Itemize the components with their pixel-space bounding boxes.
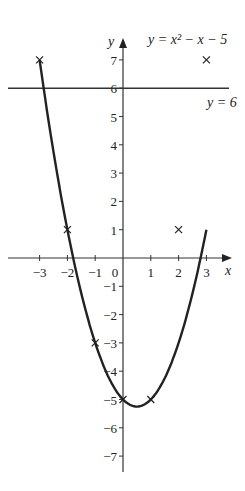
y-tick-label: 7 <box>111 53 118 68</box>
y-tick-label: −7 <box>103 449 117 464</box>
x-axis-arrow-icon <box>222 254 232 262</box>
x-tick-label: 2 <box>175 265 182 280</box>
y-tick-label: −2 <box>103 308 117 323</box>
line-equation-label: y = 6 <box>207 95 237 111</box>
x-tick-label: 3 <box>203 265 210 280</box>
y-tick-label: −1 <box>103 279 117 294</box>
y-tick-label: −5 <box>103 393 117 408</box>
y-tick-label: 3 <box>111 166 118 181</box>
x-tick-label: 0 <box>112 265 119 280</box>
x-tick-label: −3 <box>33 265 47 280</box>
y-axis-arrow-icon <box>119 38 127 48</box>
y-axis-label: y <box>108 34 114 50</box>
y-tick-label: −3 <box>103 336 117 351</box>
point-marker-icon <box>203 56 210 63</box>
x-tick-label: −2 <box>60 265 74 280</box>
y-tick-label: 1 <box>111 223 118 238</box>
x-tick-label: 1 <box>148 265 155 280</box>
y-tick-label: 2 <box>111 194 118 209</box>
graph-canvas: −3−2−10123−7−6−5−4−3−2−11234567 <box>0 0 245 491</box>
y-tick-label: −6 <box>103 421 117 436</box>
point-marker-icon <box>147 396 154 403</box>
x-tick-label: −1 <box>88 265 102 280</box>
curve-equation-label: y = x² − x − 5 <box>148 32 227 48</box>
point-marker-icon <box>175 226 182 233</box>
y-tick-label: 5 <box>111 110 118 125</box>
x-axis-label: x <box>225 263 231 279</box>
y-tick-label: 4 <box>111 138 118 153</box>
